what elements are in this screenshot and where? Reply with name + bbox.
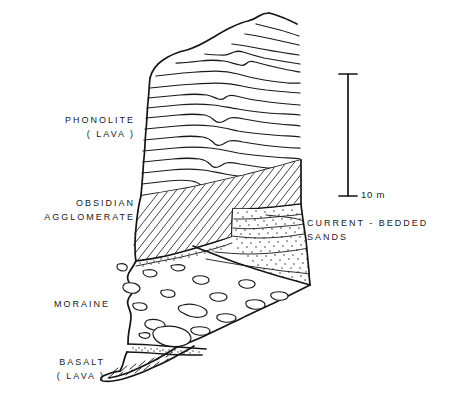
phonolite-left-edge bbox=[141, 78, 150, 196]
label-current-bedded-sands: CURRENT - BEDDED SANDS bbox=[307, 216, 455, 244]
basalt-left-edge bbox=[120, 352, 127, 371]
scale-bar-label: 10 m bbox=[361, 189, 385, 200]
label-moraine-line1: MORAINE bbox=[54, 299, 110, 309]
label-sands-line1: CURRENT - BEDDED bbox=[307, 218, 428, 228]
label-moraine: MORAINE bbox=[0, 297, 110, 311]
label-sands-line2: SANDS bbox=[307, 230, 455, 244]
phonolite-outline bbox=[150, 13, 269, 78]
label-obsidian-line1: OBSIDIAN bbox=[76, 198, 135, 208]
label-phonolite-line2: ( LAVA ) bbox=[5, 127, 135, 141]
flow-band bbox=[144, 136, 300, 148]
label-basalt-line1: BASALT bbox=[59, 357, 105, 367]
flow-band bbox=[232, 44, 299, 55]
phonolite-peak-ridge bbox=[269, 13, 297, 24]
scale-bar bbox=[339, 74, 357, 196]
flow-band bbox=[176, 60, 300, 72]
label-basalt-line2: ( LAVA ) bbox=[0, 369, 105, 383]
flow-band bbox=[256, 24, 299, 36]
basalt-unit bbox=[101, 344, 206, 381]
geological-cross-section-figure: PHONOLITE ( LAVA ) OBSIDIAN AGGLOMERATE … bbox=[0, 0, 455, 399]
flow-band bbox=[148, 94, 300, 105]
flow-band bbox=[150, 83, 300, 93]
label-phonolite-line1: PHONOLITE bbox=[65, 115, 135, 125]
flow-band bbox=[145, 125, 300, 137]
flow-band bbox=[156, 71, 300, 83]
flow-band bbox=[245, 34, 299, 45]
flow-band bbox=[147, 104, 300, 115]
flow-band bbox=[146, 114, 300, 126]
label-basalt: BASALT ( LAVA ) bbox=[0, 355, 105, 383]
moraine-clasts bbox=[117, 264, 288, 347]
flow-band bbox=[143, 147, 300, 159]
label-phonolite: PHONOLITE ( LAVA ) bbox=[5, 113, 135, 141]
label-obsidian-line2: AGGLOMERATE bbox=[5, 210, 135, 224]
basalt-dashes bbox=[108, 352, 172, 378]
label-obsidian-agglomerate: OBSIDIAN AGGLOMERATE bbox=[5, 196, 135, 224]
moraine-left-edge bbox=[128, 261, 136, 344]
